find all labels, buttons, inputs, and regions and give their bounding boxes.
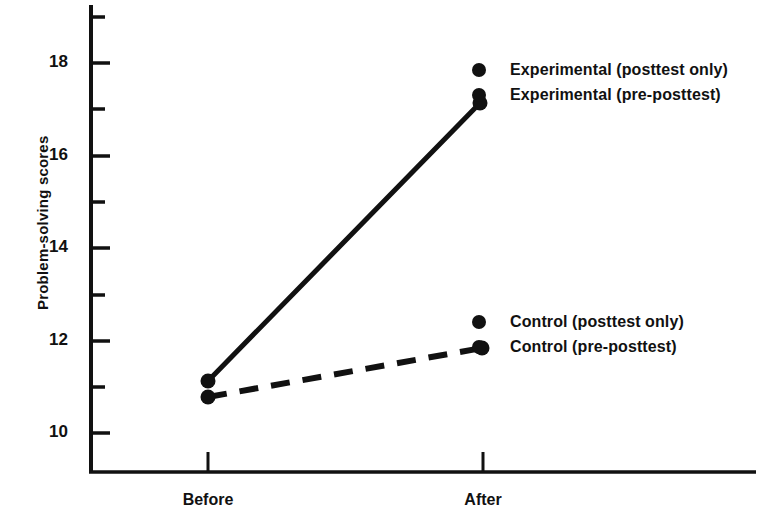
series-line-control	[208, 348, 482, 397]
point-experimental-before	[201, 374, 216, 389]
legend-label-control-posttest-only: Control (posttest only)	[510, 313, 684, 331]
y-tick-label-16: 16	[28, 145, 68, 165]
point-control-before	[201, 390, 216, 405]
legend-marker-control-pre-posttest	[472, 340, 486, 354]
legend-label-experimental-pre-posttest: Experimental (pre-posttest)	[510, 86, 721, 104]
series-line-experimental	[208, 103, 480, 381]
y-tick-label-18: 18	[28, 52, 68, 72]
x-tick-label-after: After	[423, 491, 543, 509]
legend-marker-experimental-pre-posttest	[472, 88, 486, 102]
y-tick-label-14: 14	[28, 237, 68, 257]
y-tick-label-12: 12	[28, 330, 68, 350]
legend-label-control-pre-posttest: Control (pre-posttest)	[510, 338, 677, 356]
y-tick-label-10: 10	[28, 422, 68, 442]
legend-marker-experimental-posttest-only	[472, 63, 486, 77]
x-ticks	[208, 452, 483, 472]
y-minor-ticks	[91, 17, 105, 387]
legend-marker-control-posttest-only	[472, 315, 486, 329]
legend-label-experimental-posttest-only: Experimental (posttest only)	[510, 61, 728, 79]
line-chart: Problem-solving scores 18 16 14 12 10 Be…	[0, 0, 763, 524]
data-point-markers	[201, 96, 490, 405]
y-major-ticks	[91, 63, 110, 433]
x-tick-label-before: Before	[148, 491, 268, 509]
